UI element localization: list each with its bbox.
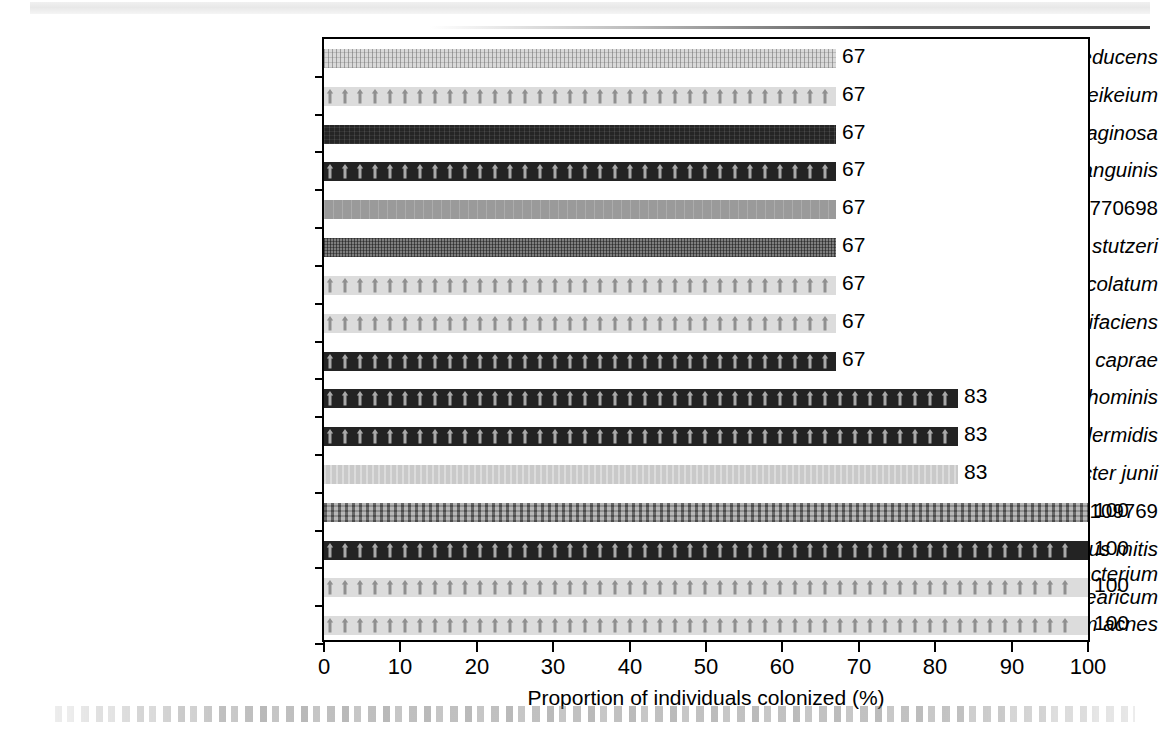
bar-row [324, 342, 1092, 381]
bar-value-label: 67 [842, 235, 865, 254]
bar-row [324, 304, 1092, 343]
bar-row [324, 228, 1092, 267]
bar [324, 87, 836, 106]
x-axis-tick [934, 642, 936, 652]
bar [324, 162, 836, 181]
bar [324, 578, 1088, 597]
bar-value-label: 67 [842, 349, 865, 368]
bar [324, 503, 1088, 522]
y-axis-tick [315, 454, 324, 456]
y-axis-tick [315, 76, 324, 78]
bar-row [324, 39, 1092, 78]
bar-value-label: 100 [1094, 575, 1129, 594]
y-axis-tick [315, 605, 324, 607]
bar-chart-figure: Diaphorobacter nitroreducensCorynebacter… [0, 0, 1166, 730]
y-axis-tick [315, 227, 324, 229]
bar-value-label: 100 [1094, 538, 1129, 557]
bar-row [324, 266, 1092, 305]
y-axis-tick [315, 530, 324, 532]
bar-value-label: 67 [842, 46, 865, 65]
bar [324, 314, 836, 333]
x-axis-tick [1011, 642, 1013, 652]
y-axis-tick [315, 189, 324, 191]
y-axis-tick [315, 341, 324, 343]
bar [324, 541, 1088, 560]
y-axis-tick [315, 265, 324, 267]
bar-row [324, 531, 1092, 570]
x-axis-tick [629, 642, 631, 652]
y-axis-tick [315, 567, 324, 569]
bar [324, 427, 958, 446]
bar-row [324, 606, 1092, 645]
bar-value-label: 100 [1094, 500, 1129, 519]
bar [324, 616, 1088, 635]
x-axis-tick-label: 20 [465, 655, 489, 679]
bar-value-label: 67 [842, 197, 865, 216]
x-axis-tick [476, 642, 478, 652]
bar [324, 49, 836, 68]
bar-value-label: 67 [842, 84, 865, 103]
x-axis-tick-label: 40 [618, 655, 642, 679]
x-axis-tick [1087, 642, 1089, 652]
x-axis-tick-label: 70 [847, 655, 871, 679]
x-axis-tick-label: 10 [388, 655, 412, 679]
bar [324, 465, 958, 484]
x-axis-tick-label: 30 [541, 655, 565, 679]
bar [324, 200, 836, 219]
bar-value-label: 83 [964, 386, 987, 405]
bar-row [324, 152, 1092, 191]
x-axis-tick [781, 642, 783, 652]
plot-area [322, 37, 1090, 642]
bar-value-label: 67 [842, 159, 865, 178]
x-axis-tick [323, 642, 325, 652]
y-axis-tick [315, 492, 324, 494]
bar-row [324, 77, 1092, 116]
bar-value-label: 67 [842, 273, 865, 292]
x-axis-tick [552, 642, 554, 652]
x-axis-tick [705, 642, 707, 652]
bar-row [324, 115, 1092, 154]
y-axis-tick [315, 151, 324, 153]
y-axis-tick [315, 378, 324, 380]
bar-value-label: 67 [842, 311, 865, 330]
bar-row [324, 568, 1092, 607]
x-axis-tick-label: 100 [1070, 655, 1107, 679]
bar [324, 238, 836, 257]
bar [324, 352, 836, 371]
x-axis-tick-label: 60 [770, 655, 794, 679]
x-axis-tick-label: 80 [923, 655, 947, 679]
bar-row [324, 493, 1092, 532]
bar [324, 125, 836, 144]
bar [324, 276, 836, 295]
bar-value-label: 67 [842, 122, 865, 141]
scan-artifact-caption-fragment [55, 706, 1135, 722]
bar [324, 389, 958, 408]
bar-value-label: 83 [964, 462, 987, 481]
x-axis-tick-label: 50 [694, 655, 718, 679]
bar-value-label: 100 [1094, 613, 1129, 632]
bar-value-label: 83 [964, 424, 987, 443]
y-axis-tick [315, 303, 324, 305]
y-axis-tick [315, 416, 324, 418]
x-axis: 0102030405060708090100 [322, 642, 1090, 682]
x-axis-tick-label: 0 [318, 655, 330, 679]
y-axis-tick [315, 114, 324, 116]
x-axis-tick-label: 90 [1000, 655, 1024, 679]
bar-row [324, 190, 1092, 229]
x-axis-tick [858, 642, 860, 652]
x-axis-tick [399, 642, 401, 652]
